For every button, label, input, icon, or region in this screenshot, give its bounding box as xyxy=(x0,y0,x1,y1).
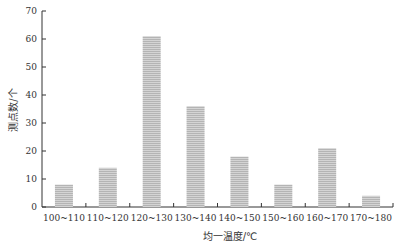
y-tick-label: 60 xyxy=(26,34,38,44)
x-tick-label: 130~140 xyxy=(175,213,217,223)
x-tick-label: 170~180 xyxy=(350,213,392,223)
x-axis-title: 均一温度/℃ xyxy=(203,230,258,242)
bars xyxy=(55,36,380,207)
x-tick-label: 110~120 xyxy=(87,213,129,223)
bar xyxy=(55,185,73,207)
x-tick-label: 140~150 xyxy=(218,213,260,223)
y-tick-label: 50 xyxy=(26,62,38,72)
x-axis: 100~110110~120120~130130~140140~150150~1… xyxy=(42,203,393,223)
x-tick-label: 160~170 xyxy=(306,213,348,223)
bar xyxy=(99,168,117,207)
bar xyxy=(143,36,161,207)
x-tick-label: 100~110 xyxy=(43,213,85,223)
y-tick-label: 0 xyxy=(31,202,37,212)
y-axis-title: 测点数/个 xyxy=(7,88,19,131)
bar xyxy=(362,196,380,207)
bar xyxy=(274,185,292,207)
y-axis: 010203040506070 xyxy=(26,6,46,212)
y-tick-label: 30 xyxy=(26,118,38,128)
y-tick-label: 70 xyxy=(26,6,38,16)
y-tick-label: 10 xyxy=(26,174,38,184)
bar-chart: 010203040506070 100~110110~120120~130130… xyxy=(0,0,410,249)
x-tick-label: 120~130 xyxy=(131,213,173,223)
y-tick-label: 20 xyxy=(26,146,38,156)
y-tick-label: 40 xyxy=(26,90,38,100)
bar xyxy=(318,148,336,207)
bar xyxy=(230,157,248,207)
x-tick-label: 150~160 xyxy=(262,213,304,223)
bar xyxy=(187,106,205,207)
